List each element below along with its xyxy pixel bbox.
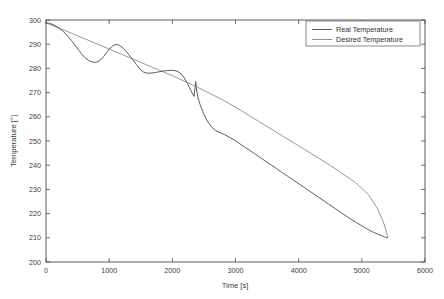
y-tick-label: 280	[29, 64, 41, 73]
y-tick-label: 210	[29, 233, 41, 242]
temperature-chart-svg: 0100020003000400050006000 20021022023024…	[0, 0, 444, 299]
series-desired-temperature	[46, 23, 388, 236]
x-tick-label: 2000	[164, 266, 180, 275]
y-axis-ticks: 200210220230240250260270280290300	[29, 16, 425, 267]
chart-legend: Real Temperature Desired Temperature	[306, 21, 420, 46]
y-tick-label: 200	[29, 258, 41, 267]
x-tick-label: 4000	[291, 266, 307, 275]
legend-label-desired: Desired Temperature	[336, 35, 403, 44]
y-tick-label: 240	[29, 161, 41, 170]
x-tick-label: 6000	[417, 266, 433, 275]
x-tick-label: 5000	[354, 266, 370, 275]
y-tick-label: 230	[29, 185, 41, 194]
series-real-temperature	[46, 23, 388, 238]
y-tick-label: 260	[29, 112, 41, 121]
y-tick-label: 300	[29, 16, 41, 25]
x-tick-label: 1000	[101, 266, 117, 275]
legend-label-real: Real Temperature	[336, 25, 393, 34]
x-axis-title: Time [s]	[222, 281, 249, 290]
y-tick-label: 220	[29, 209, 41, 218]
y-tick-label: 250	[29, 137, 41, 146]
x-tick-label: 3000	[228, 266, 244, 275]
y-tick-label: 290	[29, 40, 41, 49]
y-tick-label: 270	[29, 88, 41, 97]
chart-figure: 0100020003000400050006000 20021022023024…	[0, 0, 444, 299]
y-axis-title: Temperature [°]	[9, 115, 18, 167]
x-tick-label: 0	[44, 266, 48, 275]
